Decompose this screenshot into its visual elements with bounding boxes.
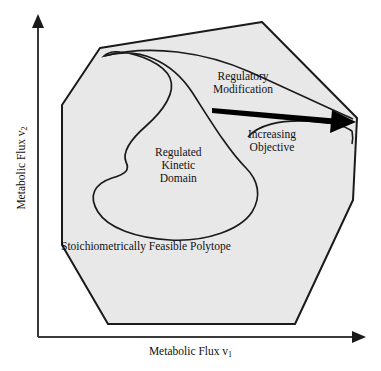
x-axis-label-subscript: 1 — [228, 350, 232, 359]
metabolic-flux-diagram: Regulatory Modification Increasing Objec… — [0, 0, 381, 371]
label-regulated-kinetic-domain-line3: Domain — [155, 172, 202, 185]
x-axis-label-text: Metabolic Flux v — [149, 345, 228, 357]
label-increasing-objective-line2: Objective — [248, 141, 296, 154]
x-axis-arrowhead — [352, 331, 366, 343]
y-axis-label-text: Metabolic Flux v — [15, 130, 27, 209]
label-stoichiometric-polytope-text: Stoichiometrically Feasible Polytope — [61, 240, 231, 253]
x-axis-label: Metabolic Flux v1 — [0, 345, 381, 357]
label-regulated-kinetic-domain: Regulated Kinetic Domain — [155, 146, 202, 185]
label-regulatory-modification: Regulatory Modification — [213, 70, 273, 96]
label-increasing-objective-line1: Increasing — [248, 128, 296, 141]
label-regulated-kinetic-domain-line1: Regulated — [155, 146, 202, 159]
label-regulatory-modification-line2: Modification — [213, 83, 273, 96]
y-axis-label: Metabolic Flux v2 — [15, 68, 27, 268]
label-regulated-kinetic-domain-line2: Kinetic — [155, 159, 202, 172]
stoichiometrically-feasible-polytope-shape — [62, 22, 357, 324]
label-regulatory-modification-line1: Regulatory — [213, 70, 273, 83]
diagram-canvas — [0, 0, 381, 371]
modified-kinetic-domain-right-flank — [352, 131, 353, 144]
label-stoichiometric-polytope: Stoichiometrically Feasible Polytope — [61, 240, 231, 253]
label-increasing-objective: Increasing Objective — [248, 128, 296, 154]
y-axis-arrowhead — [32, 14, 44, 28]
y-axis-label-subscript: 2 — [20, 126, 29, 130]
